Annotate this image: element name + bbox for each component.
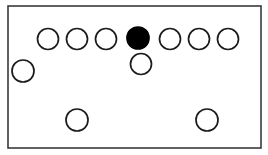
diagram-svg	[0, 0, 268, 155]
left-edge-circle	[12, 60, 34, 82]
center-circle-below-filled	[131, 54, 152, 75]
top-row-circle-5	[160, 29, 181, 50]
top-row-circle-4-filled	[127, 27, 149, 49]
bottom-row-circle-left	[66, 109, 88, 131]
top-row-circle-1	[38, 29, 59, 50]
figure-canvas	[0, 0, 268, 155]
top-row-circle-2	[67, 29, 88, 50]
bottom-row-circle-right	[196, 109, 218, 131]
top-row-circle-7	[218, 29, 239, 50]
top-row-circle-6	[189, 29, 210, 50]
top-row-circle-3	[96, 29, 117, 50]
